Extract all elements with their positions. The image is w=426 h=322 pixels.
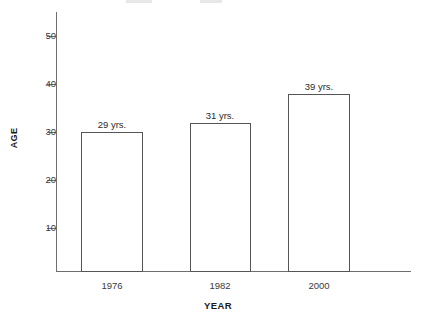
scan-artifact xyxy=(126,0,152,3)
bar-value-label-1982: 31 yrs. xyxy=(206,111,235,121)
x-tick-label-2000: 2000 xyxy=(308,281,329,291)
y-tick-label: 20 xyxy=(30,175,56,185)
y-tick-label: 10 xyxy=(30,223,56,233)
y-axis-title: AGE xyxy=(9,128,19,148)
x-axis-title: YEAR xyxy=(204,300,232,311)
bar-chart: 50 40 30 20 10 29 yrs. 31 yrs. 39 yrs. 1… xyxy=(0,0,426,322)
bar-2000 xyxy=(288,94,350,272)
bar-1982 xyxy=(190,123,251,272)
bar-value-label-2000: 39 yrs. xyxy=(305,82,334,92)
x-tick-label-1982: 1982 xyxy=(209,281,230,291)
bar-value-label-1976: 29 yrs. xyxy=(98,120,127,130)
y-axis-line xyxy=(56,12,57,272)
scan-artifact xyxy=(200,0,222,3)
y-tick-label: 30 xyxy=(30,127,56,137)
y-tick-label: 50 xyxy=(30,31,56,41)
x-tick-label-1976: 1976 xyxy=(101,281,122,291)
bar-1976 xyxy=(81,132,143,272)
y-tick-label: 40 xyxy=(30,79,56,89)
